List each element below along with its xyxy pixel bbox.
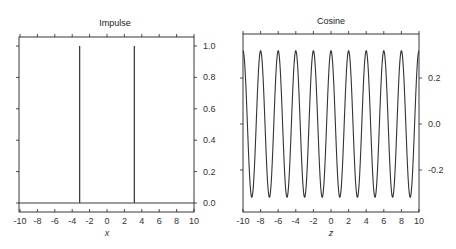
x-tick-label: 0 — [328, 216, 333, 226]
x-axis-label: x — [104, 228, 110, 238]
chart-title: Impulse — [99, 18, 131, 28]
x-tick-label: -6 — [51, 216, 59, 226]
x-tick-label: 10 — [414, 216, 424, 226]
x-tick-label: -2 — [86, 216, 94, 226]
x-tick-label: 0 — [104, 216, 109, 226]
x-tick-label: 8 — [174, 216, 179, 226]
figure: Impulse -10-8-6-4-20246810 0.00.20.40.60… — [0, 0, 456, 249]
x-tick-label: -6 — [274, 216, 282, 226]
x-tick-label: -10 — [236, 216, 249, 226]
y-tick-label: -0.2 — [428, 165, 444, 175]
x-tick-label: -8 — [257, 216, 265, 226]
x-tick-label: 2 — [122, 216, 127, 226]
cosine-series — [243, 51, 419, 197]
x-axis-label: z — [328, 228, 334, 238]
x-tick-label: 2 — [346, 216, 351, 226]
y-tick-label: 0.8 — [203, 72, 216, 82]
x-tick-label: -10 — [13, 216, 26, 226]
plot-frame — [19, 37, 194, 212]
y-tick-label: 0.4 — [203, 135, 216, 145]
x-axis: -10-8-6-4-20246810 — [236, 31, 424, 226]
y-tick-label: 1.0 — [203, 41, 216, 51]
y-tick-label: 0.0 — [203, 198, 216, 208]
y-tick-label: 0.2 — [203, 167, 216, 177]
x-tick-label: -4 — [292, 216, 300, 226]
cosine-panel: Cosine -10-8-6-4-20246810 -0.20.00.2 z — [236, 16, 443, 238]
y-tick-label: 0.6 — [203, 104, 216, 114]
x-tick-label: -8 — [33, 216, 41, 226]
x-tick-label: 8 — [399, 216, 404, 226]
x-tick-label: -4 — [68, 216, 76, 226]
cosine-curve — [243, 51, 419, 197]
x-tick-label: -2 — [309, 216, 317, 226]
y-tick-label: 0.2 — [428, 73, 441, 83]
x-tick-label: 6 — [157, 216, 162, 226]
y-axis: 0.00.20.40.60.81.0 — [16, 41, 216, 208]
x-tick-label: 6 — [381, 216, 386, 226]
x-tick-label: 4 — [364, 216, 369, 226]
x-axis: -10-8-6-4-20246810 — [13, 34, 199, 226]
plot-frame — [243, 34, 419, 212]
x-tick-label: 10 — [189, 216, 199, 226]
y-tick-label: 0.0 — [428, 119, 441, 129]
chart-title: Cosine — [317, 16, 345, 26]
x-tick-label: 4 — [139, 216, 144, 226]
impulse-panel: Impulse -10-8-6-4-20246810 0.00.20.40.60… — [13, 18, 215, 238]
impulse-series — [19, 46, 194, 203]
